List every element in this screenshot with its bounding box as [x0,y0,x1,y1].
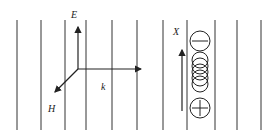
diagram: E H k X [0,0,277,135]
x-label: X [173,26,179,37]
k-label: k [101,81,105,92]
h-field-arrow [55,69,78,92]
h-label: H [48,103,55,114]
dipole-chain [190,31,210,118]
field-diagram-svg [0,0,277,135]
e-label: E [71,9,77,20]
